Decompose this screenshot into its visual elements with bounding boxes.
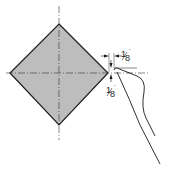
svg-text:": " <box>129 48 131 53</box>
svg-text:8: 8 <box>110 89 115 99</box>
tool-inner-edge <box>117 72 160 164</box>
diagram-canvas: 1 8 " 1 8 " <box>0 0 171 172</box>
dimension-label-horizontal: 1 8 " <box>121 48 131 63</box>
svg-text:8: 8 <box>125 53 130 63</box>
dimension-label-vertical: 1 8 " <box>106 84 116 99</box>
svg-text:": " <box>114 84 116 89</box>
